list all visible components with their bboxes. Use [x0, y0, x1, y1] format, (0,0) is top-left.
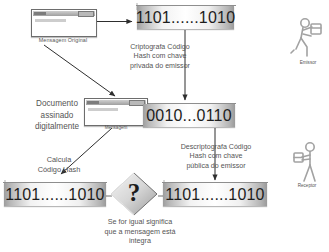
label-mensagem-assinada: Mensagem	[88, 125, 144, 131]
window-body	[85, 105, 147, 115]
message-original-window	[31, 9, 97, 37]
message-signed-window	[84, 98, 148, 126]
label-mensagem-original: Mensagem Original	[17, 37, 109, 44]
titlebar-text-stub	[87, 101, 99, 104]
label-calcula-codigo-hash: Calcula Código Hash	[28, 155, 90, 175]
window-body	[32, 16, 96, 26]
text-line	[88, 108, 118, 111]
label-descriptografa-hash: Descriptografa Código Hash com chave púb…	[164, 143, 268, 171]
text-line	[35, 19, 66, 22]
hash-code-box-top: 1101......1010	[137, 6, 234, 29]
label-emissor: Emissor	[288, 60, 328, 66]
encrypted-hash-box: 0010...0110	[143, 104, 235, 127]
hash-code-bottom-right-text: 1101......1010	[165, 186, 264, 204]
titlebar-text-stub	[34, 12, 46, 15]
hash-code-bottom-left-text: 1101......1010	[5, 186, 104, 204]
comparison-diamond: ?	[110, 172, 158, 216]
window-controls-stub	[78, 11, 94, 17]
label-receptor: Receptor	[286, 183, 328, 189]
hash-code-box-bottom-left: 1101......1010	[4, 183, 106, 206]
emissor-person-icon	[290, 16, 326, 60]
hash-code-top-text: 1101......1010	[136, 9, 235, 27]
question-mark-glyph: ?	[110, 172, 158, 216]
label-criptografa-hash: Criptografa Código Hash com chave privad…	[112, 43, 208, 71]
arrow-msg-to-signed	[44, 45, 115, 96]
receptor-person-icon	[290, 140, 326, 184]
hash-code-box-bottom-right: 1101......1010	[163, 183, 267, 206]
encrypted-hash-text: 0010...0110	[146, 107, 232, 125]
label-documento-assinado: Documento assinado digitalmente	[28, 98, 86, 133]
label-comparacao-integridade: Se for igual significa que a mensagem es…	[83, 217, 197, 246]
